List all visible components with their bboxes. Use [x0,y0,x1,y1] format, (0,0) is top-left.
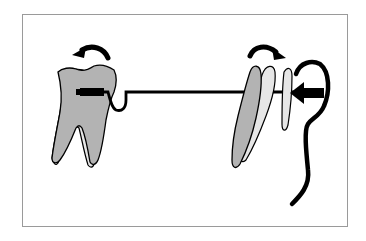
incisor-stage-3 [282,69,292,131]
bracket-tab [76,89,82,95]
diagram-canvas [0,0,366,241]
rotate-cw-arrow-icon [250,47,286,60]
bracket [80,88,104,96]
rotate-ccw-arrow-icon [72,47,108,58]
lip-outline [292,62,328,204]
force-arrow-left-icon [290,82,324,104]
